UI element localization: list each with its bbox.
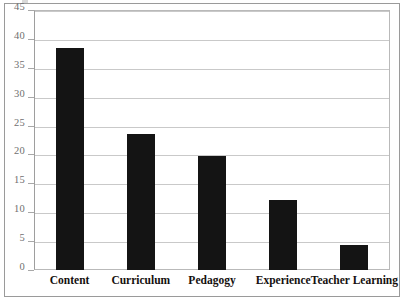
y-axis: 051015202530354045: [0, 10, 34, 270]
y-tick-label: 30: [14, 89, 25, 100]
x-axis-label: Teacher Learning: [311, 274, 398, 287]
y-tick: 30: [0, 97, 34, 98]
bar: [269, 200, 297, 270]
y-tick-mark: [28, 270, 34, 271]
bars-layer: [34, 10, 390, 270]
y-tick-label: 20: [14, 146, 25, 157]
y-tick-label: 35: [14, 60, 25, 71]
y-tick-label: 25: [14, 118, 25, 129]
y-tick-label: 10: [14, 204, 25, 215]
bar: [56, 48, 84, 270]
y-tick: 25: [0, 126, 34, 127]
bar: [198, 156, 226, 270]
x-axis-label: Experience: [256, 274, 311, 287]
x-axis-labels: ContentCurriculumPedagogyExperienceTeach…: [34, 272, 390, 294]
y-tick: 35: [0, 68, 34, 69]
y-tick-label: 40: [14, 31, 25, 42]
y-tick-label: 45: [14, 2, 25, 13]
y-tick: 0: [0, 270, 34, 271]
y-tick: 45: [0, 10, 34, 11]
y-tick: 20: [0, 154, 34, 155]
bar-chart: 051015202530354045 ContentCurriculumPeda…: [0, 0, 405, 301]
bar: [340, 245, 368, 270]
y-tick-label: 15: [14, 175, 25, 186]
y-tick: 10: [0, 212, 34, 213]
y-tick: 15: [0, 183, 34, 184]
y-tick-label: 5: [20, 233, 25, 244]
x-axis-label: Curriculum: [111, 274, 170, 287]
y-tick-label: 0: [20, 262, 25, 273]
bar: [127, 134, 155, 270]
x-axis-label: Content: [50, 274, 90, 287]
y-tick: 5: [0, 241, 34, 242]
y-tick: 40: [0, 39, 34, 40]
x-axis-label: Pedagogy: [188, 274, 235, 287]
